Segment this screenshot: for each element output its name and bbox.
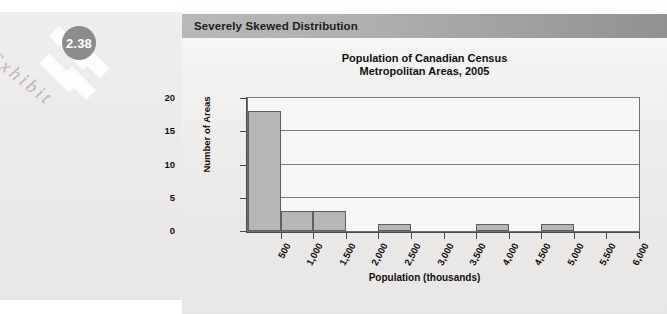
- y-tick: [240, 198, 247, 199]
- x-tick: [541, 233, 542, 239]
- gridline-y-5: [248, 197, 639, 198]
- gridline-y-20: [248, 97, 639, 98]
- x-tick: [346, 233, 347, 239]
- histogram-bar: [541, 224, 574, 231]
- y-tick-label: 5: [135, 193, 175, 202]
- exhibit-number-badge: 2.38: [62, 26, 96, 60]
- exhibit-panel: Exhibit 2.38: [0, 12, 182, 300]
- y-tick: [240, 231, 247, 232]
- x-tick: [509, 233, 510, 239]
- exhibit-header-bar: Severely Skewed Distribution: [182, 14, 667, 38]
- chart-title-line-1: Population of Canadian Census: [182, 52, 667, 65]
- y-tick-label: 15: [135, 126, 175, 135]
- histogram-bar: [378, 224, 411, 231]
- exhibit-header-title: Severely Skewed Distribution: [182, 20, 358, 32]
- x-tick: [574, 233, 575, 239]
- histogram-bar: [476, 224, 509, 231]
- y-axis-title: Number of Areas: [201, 75, 212, 195]
- x-tick: [444, 233, 445, 239]
- x-tick: [606, 233, 607, 239]
- histogram-bar: [281, 211, 314, 231]
- y-tick-label: 20: [135, 93, 175, 102]
- gridline-y-15: [248, 130, 639, 131]
- x-tick: [411, 233, 412, 239]
- y-tick-label: 10: [135, 160, 175, 169]
- chart-title-line-2: Metropolitan Areas, 2005: [182, 65, 667, 78]
- x-tick: [313, 233, 314, 239]
- chart-title: Population of Canadian Census Metropolit…: [182, 52, 667, 78]
- histogram-figure: Population of Canadian Census Metropolit…: [182, 44, 667, 294]
- y-tick-label: 0: [135, 226, 175, 235]
- histogram-bar: [248, 111, 281, 231]
- x-axis-title: Population (thousands): [182, 272, 667, 283]
- y-tick: [240, 165, 247, 166]
- x-tick: [476, 233, 477, 239]
- y-tick: [240, 98, 247, 99]
- x-tick: [378, 233, 379, 239]
- figure-content-area: Severely Skewed Distribution Population …: [182, 0, 667, 314]
- x-tick: [281, 233, 282, 239]
- gridline-y-10: [248, 164, 639, 165]
- y-tick: [240, 131, 247, 132]
- exhibit-figure-page: Exhibit 2.38 Severely Skewed Distributio…: [0, 0, 667, 314]
- histogram-bar: [313, 211, 346, 231]
- plot-area: [247, 97, 640, 232]
- x-tick: [639, 233, 640, 239]
